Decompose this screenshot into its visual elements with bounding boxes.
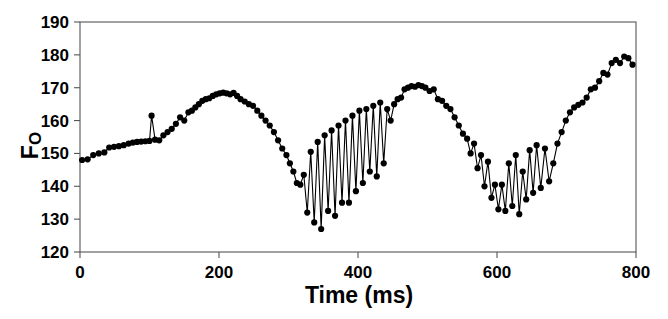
data-point: [431, 86, 437, 92]
data-point: [271, 129, 277, 135]
data-point: [363, 106, 369, 112]
data-point: [567, 109, 573, 115]
x-tick-label: 0: [75, 263, 84, 282]
data-point: [478, 152, 484, 158]
data-point: [388, 117, 394, 123]
data-point: [370, 103, 376, 109]
plot-area: 120130140150160170180190 0200400600800: [0, 0, 668, 319]
data-point: [254, 108, 260, 114]
data-point: [335, 122, 341, 128]
data-point: [625, 55, 631, 61]
data-point: [349, 113, 355, 119]
y-tick-label: 180: [41, 46, 69, 65]
y-tick-label: 160: [41, 112, 69, 131]
y-tick-label: 170: [41, 79, 69, 98]
x-tick-label: 800: [622, 263, 650, 282]
f0-data-markers: [79, 53, 636, 232]
data-point: [617, 60, 623, 66]
data-point: [471, 140, 477, 146]
data-point: [275, 137, 281, 143]
data-point: [384, 106, 390, 112]
data-point: [460, 131, 466, 137]
data-point: [346, 200, 352, 206]
data-point: [527, 147, 533, 153]
data-point: [495, 206, 501, 212]
data-point: [148, 113, 154, 119]
data-point: [297, 182, 303, 188]
data-point: [360, 180, 366, 186]
data-point: [308, 149, 314, 155]
y-tick-label: 120: [41, 243, 69, 262]
x-tick-group: 0200400600800: [75, 252, 650, 282]
data-point: [559, 129, 565, 135]
y-tick-label: 130: [41, 210, 69, 229]
data-point: [315, 139, 321, 145]
data-point: [146, 138, 152, 144]
data-point: [332, 213, 338, 219]
data-point: [546, 178, 552, 184]
y-tick-group: 120130140150160170180190: [41, 13, 80, 262]
data-point: [339, 200, 345, 206]
data-point: [90, 152, 96, 158]
data-point: [258, 113, 264, 119]
data-point: [481, 183, 487, 189]
data-point: [474, 165, 480, 171]
data-point: [530, 190, 536, 196]
data-point: [279, 145, 285, 151]
data-point: [516, 211, 522, 217]
data-point: [629, 62, 635, 68]
data-point: [283, 152, 289, 158]
data-point: [439, 98, 445, 104]
data-point: [604, 71, 610, 77]
data-point: [169, 126, 175, 132]
f0-contour-line: [82, 57, 632, 230]
data-point: [381, 160, 387, 166]
data-point: [96, 150, 102, 156]
data-point: [398, 94, 404, 100]
data-point: [304, 209, 310, 215]
data-point: [311, 219, 317, 225]
data-point: [467, 150, 473, 156]
y-tick-label: 190: [41, 13, 69, 32]
data-point: [367, 168, 373, 174]
data-point: [156, 137, 162, 143]
data-point: [554, 140, 560, 146]
data-point: [447, 106, 453, 112]
data-point: [101, 149, 107, 155]
data-point: [523, 196, 529, 202]
data-point: [353, 188, 359, 194]
data-point: [584, 94, 590, 100]
data-point: [173, 121, 179, 127]
data-point: [464, 136, 470, 142]
data-point: [322, 132, 328, 138]
data-point: [542, 145, 548, 151]
data-point: [262, 117, 268, 123]
data-point: [596, 78, 602, 84]
data-point: [506, 160, 512, 166]
data-point: [342, 117, 348, 123]
data-point: [377, 99, 383, 105]
data-point: [520, 168, 526, 174]
data-point: [181, 117, 187, 123]
data-point: [452, 114, 458, 120]
data-point: [301, 172, 307, 178]
data-point: [85, 156, 91, 162]
x-tick-label: 200: [205, 263, 233, 282]
data-point: [550, 160, 556, 166]
chart-figure: FO Time (ms) 120130140150160170180190 02…: [0, 0, 668, 319]
data-point: [374, 173, 380, 179]
data-point: [250, 103, 256, 109]
data-point: [328, 127, 334, 133]
data-point: [485, 159, 491, 165]
data-point: [499, 182, 505, 188]
data-point: [534, 142, 540, 148]
data-point: [513, 152, 519, 158]
data-point: [287, 160, 293, 166]
data-point: [579, 99, 585, 105]
data-point: [290, 168, 296, 174]
data-point: [502, 208, 508, 214]
data-point: [509, 203, 515, 209]
data-point: [325, 208, 331, 214]
data-point: [318, 226, 324, 232]
data-point: [488, 195, 494, 201]
